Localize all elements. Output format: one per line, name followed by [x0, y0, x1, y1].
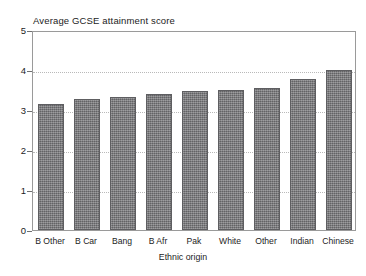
plot-area: [32, 31, 356, 231]
y-tick-3: [27, 111, 32, 112]
y-tick-2: [27, 151, 32, 152]
gcse-attainment-bar-chart: Average GCSE attainment score 012345 B O…: [0, 0, 366, 276]
x-axis-label: B Afr: [140, 236, 176, 246]
bar: [326, 70, 352, 230]
y-tick-5: [27, 31, 32, 32]
y-tick-4: [27, 71, 32, 72]
x-axis-label: Bang: [104, 236, 140, 246]
y-axis-label: 2: [0, 146, 26, 156]
x-axis-label: B Car: [68, 236, 104, 246]
bar: [290, 79, 316, 230]
y-tick-0: [27, 231, 32, 232]
x-axis-title: Ethnic origin: [0, 252, 366, 262]
bar: [182, 91, 208, 230]
x-axis-label: Indian: [284, 236, 320, 246]
chart-title: Average GCSE attainment score: [33, 15, 175, 26]
y-tick-1: [27, 191, 32, 192]
x-axis-label: White: [212, 236, 248, 246]
y-axis-label: 4: [0, 66, 26, 76]
x-axis-label: Chinese: [320, 236, 356, 246]
bar: [110, 97, 136, 230]
bar: [74, 99, 100, 230]
bar: [146, 94, 172, 230]
y-axis-label: 1: [0, 186, 26, 196]
y-axis-label: 3: [0, 106, 26, 116]
x-axis-label: Pak: [176, 236, 212, 246]
x-axis-label: B Other: [32, 236, 68, 246]
x-axis-label: Other: [248, 236, 284, 246]
y-axis-label: 0: [0, 226, 26, 236]
bar: [38, 104, 64, 230]
bar: [218, 90, 244, 230]
bars-layer: [33, 32, 355, 230]
y-axis-label: 5: [0, 26, 26, 36]
bar: [254, 88, 280, 230]
